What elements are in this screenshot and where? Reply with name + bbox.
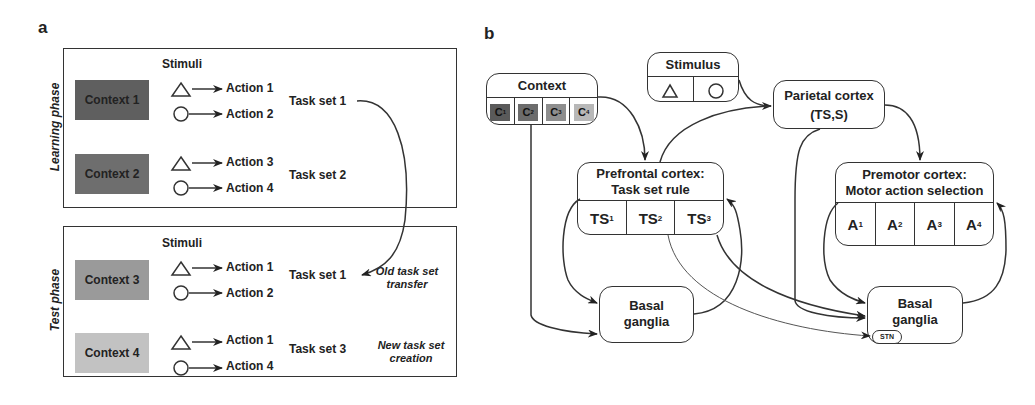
action-cell-a1: A1 (836, 203, 875, 246)
context-1-box: Context 1 (75, 80, 149, 120)
context-2-box: Context 2 (75, 154, 149, 194)
context-node: Context C1 C2 C3 C4 (486, 73, 598, 125)
triangle-icon (648, 77, 693, 102)
basal-ganglia-left-node: Basal ganglia (599, 286, 694, 343)
prefrontal-cortex-node: Prefrontal cortex: Task set rule TS1 TS2… (577, 162, 724, 235)
action-label: Action 4 (226, 181, 273, 195)
context-chip-c3: C3 (546, 104, 566, 121)
context-node-title: Context (487, 74, 597, 97)
basal-ganglia-line1: Basal (868, 296, 962, 312)
basal-ganglia-line2: ganglia (868, 312, 962, 328)
action-label: Action 1 (226, 260, 273, 274)
action-label: Action 1 (226, 81, 273, 95)
context-chip-c2: C2 (518, 104, 538, 121)
action-label: Action 2 (226, 286, 273, 300)
task-set-label: Task set 1 (289, 268, 346, 282)
new-task-set-creation-note: New task set creation (372, 339, 450, 365)
panel-a-label: a (38, 18, 47, 38)
stimuli-header: Stimuli (162, 57, 202, 71)
task-set-label: Task set 2 (289, 168, 346, 182)
context-chip-c1: C1 (490, 104, 510, 121)
action-cell-a4: A4 (954, 203, 994, 246)
parietal-cortex-node: Parietal cortex (TS,S) (773, 80, 885, 129)
prefrontal-title-1: Prefrontal cortex: (578, 166, 723, 182)
task-set-label: Task set 1 (289, 94, 346, 108)
stimuli-header: Stimuli (162, 236, 202, 250)
parietal-title: Parietal cortex (774, 88, 884, 104)
premotor-cortex-node: Premotor cortex: Motor action selection … (835, 162, 994, 246)
action-label: Action 4 (226, 359, 273, 373)
premotor-title-2: Motor action selection (836, 183, 993, 199)
test-phase-label: Test phase (48, 250, 62, 350)
action-label: Action 2 (226, 107, 273, 121)
parietal-subtitle: (TS,S) (774, 107, 884, 123)
context-4-box: Context 4 (75, 333, 149, 373)
context-3-box: Context 3 (75, 260, 149, 300)
task-set-cell-ts2: TS2 (626, 201, 675, 235)
action-label: Action 1 (226, 333, 273, 347)
task-set-cell-ts1: TS1 (578, 201, 626, 235)
action-cell-a2: A2 (875, 203, 915, 246)
basal-ganglia-line1: Basal (600, 298, 693, 314)
premotor-title-1: Premotor cortex: (836, 167, 993, 183)
task-set-label: Task set 3 (289, 342, 346, 356)
learning-phase-label: Learning phase (48, 77, 62, 177)
task-set-cell-ts3: TS3 (674, 201, 723, 235)
old-task-set-transfer-note: Old task set transfer (372, 265, 442, 291)
stimulus-node-title: Stimulus (648, 53, 738, 76)
panel-b-label: b (484, 24, 494, 44)
context-chip-c4: C4 (574, 104, 594, 121)
circle-icon (693, 77, 739, 102)
basal-ganglia-line2: ganglia (600, 314, 693, 330)
stimulus-node: Stimulus (647, 52, 739, 102)
action-label: Action 3 (226, 155, 273, 169)
stn-badge: STN (872, 330, 902, 344)
prefrontal-title-2: Task set rule (578, 182, 723, 198)
action-cell-a3: A3 (914, 203, 954, 246)
